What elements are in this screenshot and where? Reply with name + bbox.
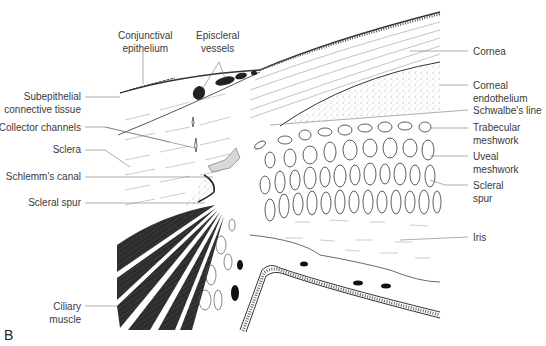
label-cornea: Cornea (473, 45, 506, 58)
label-schlemms-canal: Schlemm's canal (6, 170, 81, 183)
label-corneal-endothelium: Corneal endothelium (473, 79, 527, 105)
label-ciliary-muscle: Ciliary muscle (49, 300, 81, 326)
label-conjunctival-epithelium: Conjunctival epithelium (118, 29, 172, 55)
collector-channels (192, 117, 197, 152)
label-iris: Iris (473, 231, 486, 244)
schlemms-canal (208, 148, 240, 172)
label-schwalbes-line: Schwalbe's line (473, 104, 542, 117)
iris-pigment-epithelium (240, 265, 440, 332)
angle-anatomy-illustration (0, 0, 546, 346)
scleral-spur (185, 175, 214, 210)
label-sclera: Sclera (53, 143, 81, 156)
conjunctiva (118, 72, 260, 135)
label-scleral-spur-right: Scleral spur (473, 179, 504, 205)
trabecular-meshwork (253, 122, 441, 221)
label-episcleral-vessels: Episcleral vessels (196, 29, 239, 55)
label-uveal-meshwork: Uveal meshwork (473, 150, 519, 176)
label-scleral-spur-left: Scleral spur (28, 196, 81, 209)
label-subepithelial-connective-tissue: Subepithelial connective tissue (4, 90, 81, 116)
label-collector-channels: Collector channels (0, 121, 81, 134)
label-trabecular-meshwork: Trabecular meshwork (473, 121, 520, 147)
panel-letter: B (4, 327, 13, 343)
